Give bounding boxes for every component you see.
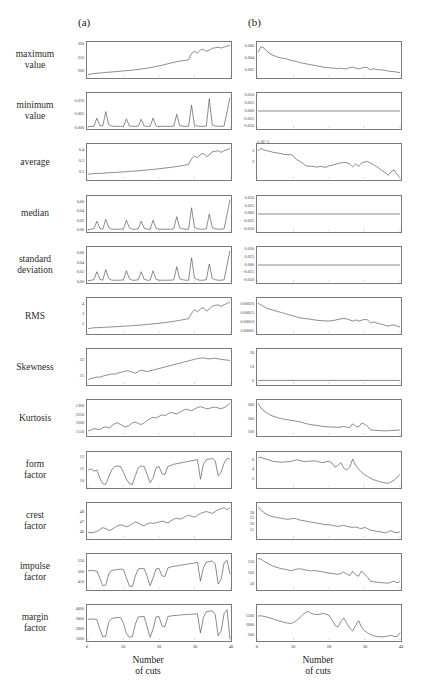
plot-panel-a-10 [86, 553, 232, 591]
data-line [88, 403, 230, 431]
y-tick-label: 10 [60, 479, 84, 484]
plot-panel-b-6 [256, 348, 402, 386]
y-tick-label: 500 [230, 633, 254, 638]
x-axis-caption-b: Number of cuts [278, 655, 358, 677]
plot-panel-b-8 [256, 451, 402, 489]
y-tick-label: 3000 [60, 617, 84, 622]
y-tick-label: 1000 [230, 623, 254, 628]
y-tick-label: 500 [230, 403, 254, 408]
row-label-4: standarddeviation [2, 254, 68, 276]
data-line [88, 250, 230, 280]
y-tick-label: 450 [60, 580, 84, 585]
data-line [88, 358, 230, 380]
y-tick-label: 0.06 [60, 200, 84, 205]
data-line [88, 45, 230, 74]
row-label-3: median [2, 208, 68, 219]
y-tick-label: 0.06 [60, 251, 84, 256]
data-line [258, 404, 400, 432]
y-tick-label: 0.000 [230, 211, 254, 216]
y-tick-label: 1300 [60, 404, 84, 409]
data-line [88, 508, 230, 533]
y-tick-label: 100 [230, 571, 254, 576]
y-tick-label: 3 [60, 312, 84, 317]
row-label-7: Kurtosis [2, 413, 68, 424]
plot-panel-a-6 [86, 348, 232, 386]
y-tick-label: 0.010 [60, 99, 84, 104]
y-tick-label: 0.025 [230, 255, 254, 260]
data-line [88, 458, 230, 484]
plot-panel-b-0 [256, 41, 402, 79]
plot-panel-b-11 [256, 604, 402, 642]
y-tick-label: 0.005 [60, 112, 84, 117]
data-line [88, 560, 230, 586]
y-tick-label: 50 [230, 582, 254, 587]
x-axis-caption-b-line2: of cuts [305, 666, 331, 676]
figure-root: (a) (b) maximumvalue2002503000.0060.0040… [0, 0, 435, 698]
y-tick-label: 20 [230, 522, 254, 527]
y-tick-label: 4000 [60, 607, 84, 612]
plot-panel-a-8 [86, 451, 232, 489]
y-tick-label: 0.04 [60, 209, 84, 214]
plot-panel-b-7 [256, 399, 402, 437]
y-tick-label: 0.00005 [230, 329, 254, 334]
data-line [258, 558, 400, 583]
y-tick-label: 0.000 [60, 126, 84, 131]
plot-panel-b-9 [256, 502, 402, 540]
row-label-8: formfactor [2, 459, 68, 481]
y-tick-label: 2 [230, 160, 254, 165]
y-tick-label: 32 [60, 358, 84, 363]
plot-panel-b-2 [256, 143, 402, 181]
plot-panel-a-7 [86, 399, 232, 437]
y-tick-label: 1500 [230, 614, 254, 619]
y-tick-label: 15 [230, 528, 254, 533]
row-label-5: RMS [2, 311, 68, 322]
y-tick-label: 0.006 [230, 44, 254, 49]
y-tick-label: 0.00020 [230, 302, 254, 307]
plot-panel-b-5 [256, 297, 402, 335]
y-tick-label: 4 [230, 467, 254, 472]
data-line [88, 98, 230, 127]
y-tick-label: 0.00 [60, 280, 84, 285]
x-axis-caption-a-line2: of cuts [135, 666, 161, 676]
y-tick-label: 6 [230, 458, 254, 463]
data-line [258, 303, 400, 327]
data-line [258, 47, 400, 73]
y-tick-label: 1000 [60, 637, 84, 642]
y-tick-label: 20 [230, 351, 254, 356]
y-tick-label: 0.002 [230, 68, 254, 73]
y-tick-label: 0.000 [230, 109, 254, 114]
y-tick-label: -0.025 [230, 270, 254, 275]
y-tick-label: 500 [60, 570, 84, 575]
column-header-b: (b) [248, 16, 261, 28]
y-tick-label: 0.004 [230, 56, 254, 61]
y-tick-label: 0 [230, 379, 254, 384]
row-label-9: crestfactor [2, 510, 68, 532]
data-line [88, 149, 230, 175]
y-tick-label: 100 [230, 430, 254, 435]
x-tick-label-b: 10 [285, 644, 301, 649]
x-tick-label-b: 40 [393, 644, 409, 649]
plot-panel-a-0 [86, 41, 232, 79]
column-header-a: (a) [78, 16, 90, 28]
y-tick-label: 0.3 [60, 159, 84, 164]
y-tick-label: 0.02 [60, 219, 84, 224]
y-tick-label: 2 [230, 477, 254, 482]
y-tick-label: 2 [60, 322, 84, 327]
plot-panel-a-3 [86, 195, 232, 233]
y-tick-label: -0.025 [230, 219, 254, 224]
x-tick-label-a: 20 [151, 644, 167, 649]
plot-panel-a-2 [86, 143, 232, 181]
y-tick-label: 3 [230, 149, 254, 154]
y-tick-label: 0.050 [230, 196, 254, 201]
data-line [88, 199, 230, 229]
row-label-2: average [2, 157, 68, 168]
plot-panel-a-11 [86, 604, 232, 642]
data-line [88, 610, 230, 639]
y-tick-label: 0.000 [230, 263, 254, 268]
y-tick-label: 150 [230, 560, 254, 565]
y-tick-label: 0.2 [60, 170, 84, 175]
y-tick-label: 46 [60, 530, 84, 535]
y-tick-label: -0.050 [230, 227, 254, 232]
y-tick-label: 12 [60, 455, 84, 460]
x-tick-label-a: 10 [115, 644, 131, 649]
